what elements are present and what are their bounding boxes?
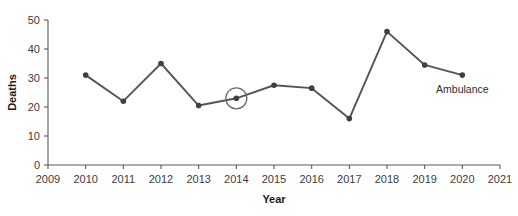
- y-tick-label: 30: [28, 72, 40, 84]
- data-point-marker: [422, 62, 428, 68]
- data-point-marker: [234, 96, 240, 102]
- x-tick-label: 2021: [488, 173, 512, 185]
- y-axis-title: Deaths: [6, 74, 18, 111]
- y-tick-label: 0: [34, 159, 40, 171]
- x-tick-label: 2015: [262, 173, 286, 185]
- x-tick-label: 2010: [73, 173, 97, 185]
- x-tick-label: 2016: [299, 173, 323, 185]
- data-point-marker: [196, 103, 202, 109]
- data-point-marker: [384, 29, 390, 35]
- data-point-marker: [83, 72, 89, 78]
- x-axis-title: Year: [262, 193, 286, 205]
- data-point-marker: [460, 72, 466, 78]
- x-tick-label: 2020: [450, 173, 474, 185]
- x-tick-label: 2014: [224, 173, 248, 185]
- x-tick-label: 2019: [412, 173, 436, 185]
- series-line-ambulance: [86, 32, 463, 119]
- data-point-marker: [158, 61, 164, 67]
- y-tick-label: 40: [28, 43, 40, 55]
- data-point-marker: [271, 82, 277, 88]
- x-tick-label: 2013: [186, 173, 210, 185]
- y-tick-label: 10: [28, 130, 40, 142]
- x-tick-label: 2011: [112, 173, 136, 185]
- y-tick-label: 50: [28, 14, 40, 26]
- chart-container: 0102030405020092010201120122013201420152…: [0, 0, 518, 216]
- data-point-marker: [347, 116, 353, 122]
- x-tick-label: 2017: [337, 173, 361, 185]
- x-tick-label: 2009: [36, 173, 60, 185]
- series-inline-label: Ambulance: [436, 83, 489, 95]
- x-tick-label: 2012: [149, 173, 173, 185]
- data-point-marker: [121, 98, 127, 104]
- x-tick-label: 2018: [375, 173, 399, 185]
- y-tick-label: 20: [28, 101, 40, 113]
- line-chart: 0102030405020092010201120122013201420152…: [0, 0, 518, 216]
- data-point-marker: [309, 85, 315, 91]
